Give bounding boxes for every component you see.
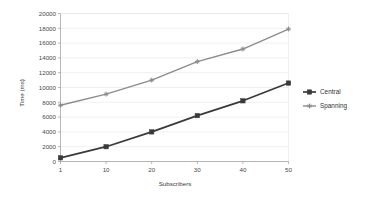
y-tick-label: 14000 — [39, 54, 57, 61]
chart-canvas: 0200040006000800010000120001400016000180… — [0, 0, 374, 197]
y-tick-label: 10000 — [39, 84, 57, 91]
data-point-marker-central — [104, 145, 108, 149]
x-tick-label: 30 — [194, 166, 201, 173]
y-tick-label: 18000 — [39, 25, 57, 32]
x-tick-label: 20 — [148, 166, 155, 173]
legend-label-spanning: Spanning — [320, 102, 347, 110]
data-point-marker-spanning — [195, 59, 200, 64]
chart-background — [0, 0, 374, 197]
x-tick-label: 40 — [239, 166, 246, 173]
data-point-marker-spanning — [104, 92, 109, 97]
data-point-marker-central — [286, 81, 290, 85]
legend-marker-cross — [307, 104, 312, 109]
data-point-marker-central — [241, 99, 245, 103]
legend-label-central: Central — [320, 88, 341, 95]
y-axis-label: Time (ms) — [18, 79, 25, 107]
data-point-marker-central — [150, 130, 154, 134]
line-chart: 0200040006000800010000120001400016000180… — [0, 0, 374, 197]
x-axis-label: Subscribers — [159, 180, 192, 187]
data-point-marker-central — [195, 113, 199, 117]
data-point-marker-spanning — [241, 47, 246, 52]
y-tick-label: 6000 — [42, 113, 56, 120]
x-tick-label: 1 — [59, 166, 63, 173]
data-point-marker-spanning — [58, 103, 63, 108]
legend-marker-square — [307, 90, 311, 94]
y-tick-label: 2000 — [42, 143, 56, 150]
y-tick-label: 0 — [53, 158, 57, 165]
data-point-marker-spanning — [286, 27, 291, 32]
y-tick-label: 4000 — [42, 128, 56, 135]
data-point-marker-central — [58, 156, 62, 160]
y-tick-label: 20000 — [39, 10, 57, 17]
x-tick-label: 50 — [285, 166, 292, 173]
y-tick-label: 16000 — [39, 39, 57, 46]
x-tick-label: 10 — [103, 166, 110, 173]
y-tick-label: 8000 — [42, 99, 56, 106]
data-point-marker-spanning — [149, 78, 154, 83]
y-tick-label: 12000 — [39, 69, 57, 76]
